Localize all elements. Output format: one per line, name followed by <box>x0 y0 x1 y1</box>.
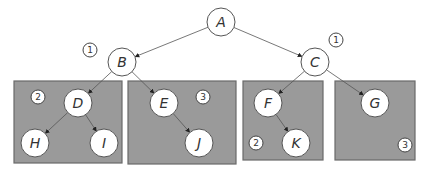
node-label: G <box>370 95 381 111</box>
node-label: C <box>310 54 320 70</box>
node-label: D <box>73 95 84 111</box>
badge-label: 1 <box>333 35 339 45</box>
badge-box4: 3 <box>398 138 412 152</box>
node-c: C <box>301 48 329 76</box>
node-b: B <box>108 48 136 76</box>
tree-diagram: ABCDEFGHIJK 112323 <box>0 0 430 175</box>
node-label: H <box>30 135 41 151</box>
edge-a-b <box>135 27 208 57</box>
node-h: H <box>21 129 49 157</box>
badge-box3: 2 <box>249 136 263 150</box>
node-label: E <box>160 95 169 111</box>
node-k: K <box>282 129 310 157</box>
badge-label: 1 <box>87 45 93 55</box>
node-e: E <box>150 89 178 117</box>
node-f: F <box>254 89 282 117</box>
badge-box1: 2 <box>31 90 45 104</box>
badge-label: 3 <box>200 92 206 102</box>
badge-box2: 3 <box>196 90 210 104</box>
node-label: B <box>117 54 127 70</box>
badge-label: 2 <box>253 138 259 148</box>
node-label: A <box>215 14 226 30</box>
node-j: J <box>185 129 213 157</box>
node-g: G <box>361 89 389 117</box>
node-i: I <box>90 129 118 157</box>
node-d: D <box>64 89 92 117</box>
badge-label: 3 <box>402 140 408 150</box>
badge-c: 1 <box>329 33 343 47</box>
box-2 <box>128 81 236 164</box>
node-label: I <box>102 135 106 151</box>
node-a: A <box>207 8 235 36</box>
badge-b: 1 <box>83 43 97 57</box>
badge-label: 2 <box>35 92 41 102</box>
edge-a-c <box>234 27 302 56</box>
node-label: F <box>264 95 273 111</box>
